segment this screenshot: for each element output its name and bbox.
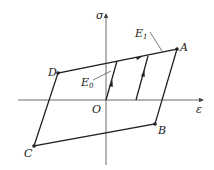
epsilon-label: ε	[196, 103, 202, 116]
point-b-label: B	[157, 124, 166, 137]
origin-label: O	[92, 103, 101, 116]
e0-label: E0	[80, 76, 94, 90]
point-c-label: C	[24, 147, 33, 160]
point-b-dot	[153, 122, 157, 126]
arrow-icon	[141, 70, 145, 77]
e0-leader	[93, 71, 111, 80]
point-c-dot	[32, 144, 36, 148]
point-d-label: D	[47, 66, 57, 79]
reloading-line	[136, 56, 148, 100]
sigma-label: σ	[96, 9, 104, 22]
hysteresis-loop	[34, 49, 177, 146]
initial-loading-line	[106, 61, 117, 100]
point-a-label: A	[179, 41, 188, 54]
hysteresis-diagram: σ ε A B C D O E1 E0	[0, 0, 214, 170]
e1-leader	[150, 32, 162, 51]
point-a-dot	[175, 47, 179, 51]
e1-label: E1	[134, 27, 148, 41]
